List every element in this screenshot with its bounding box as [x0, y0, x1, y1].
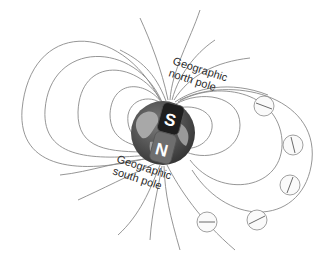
magnetic-field-diagram: S N Geographic north pole Geographic sou…	[0, 0, 332, 260]
